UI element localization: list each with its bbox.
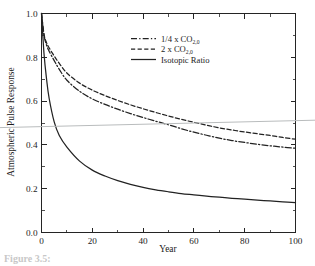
x-axis-title: Year bbox=[159, 244, 177, 254]
figure-root: 0.00.20.40.60.81.0 020406080100 Year Atm… bbox=[0, 0, 315, 266]
legend-label-quarter-co2: 1/4 x CO2,0 bbox=[161, 34, 200, 45]
y-tick-label: 0.8 bbox=[26, 53, 38, 63]
y-tick-labels: 0.00.20.40.60.81.0 bbox=[26, 9, 38, 238]
legend-entry-isotopic-ratio: Isotopic Ratio bbox=[131, 55, 209, 65]
legend-entry-double-co2: 2 x CO2,0 bbox=[131, 44, 193, 55]
y-tick-label: 0.4 bbox=[26, 140, 38, 150]
caption-strip: Figure 3.5: bbox=[0, 255, 315, 266]
y-tick-label: 0.0 bbox=[26, 228, 38, 238]
x-tick-label: 40 bbox=[139, 236, 149, 246]
x-tick-label: 80 bbox=[240, 236, 250, 246]
legend-entry-quarter-co2: 1/4 x CO2,0 bbox=[131, 34, 200, 45]
x-tick-label: 60 bbox=[189, 236, 199, 246]
y-axis-title: Atmospheric Pulse Response bbox=[6, 67, 16, 176]
legend: 1/4 x CO2,0 2 x CO2,0 Isotopic Ratio bbox=[131, 34, 209, 65]
x-tick-label: 20 bbox=[88, 236, 98, 246]
atmospheric-pulse-response-chart: 0.00.20.40.60.81.0 020406080100 Year Atm… bbox=[0, 0, 315, 266]
figure-caption-fragment: Figure 3.5: bbox=[4, 255, 50, 264]
legend-label-isotopic-ratio: Isotopic Ratio bbox=[161, 55, 209, 65]
y-tick-label: 0.2 bbox=[26, 184, 38, 194]
legend-label-double-co2: 2 x CO2,0 bbox=[161, 44, 193, 55]
x-tick-label: 0 bbox=[39, 236, 44, 246]
y-tick-label: 0.6 bbox=[26, 96, 38, 106]
x-tick-label: 100 bbox=[289, 236, 303, 246]
curve-2-x-co2-0 bbox=[42, 14, 296, 140]
y-tick-label: 1.0 bbox=[26, 9, 38, 19]
